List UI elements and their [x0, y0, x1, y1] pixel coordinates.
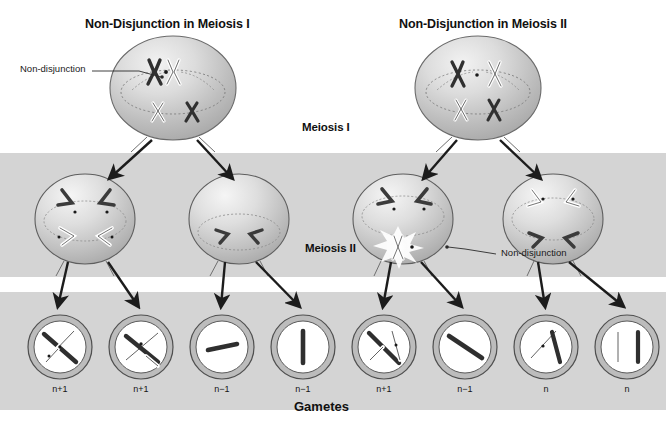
gamete-cell-3: [190, 315, 254, 379]
gametes-row-label: Gametes: [294, 400, 349, 413]
stage-label-meiosis-two: Meiosis II: [305, 243, 356, 255]
gamete-cell-2: [109, 315, 173, 379]
callout-nondisjunction-left: Non-disjunction: [20, 64, 85, 74]
parent-cell-right: [415, 36, 541, 152]
gamete-label-8: n: [624, 385, 629, 394]
gamete-cell-6: [433, 315, 497, 379]
gamete-cell-1: [28, 315, 92, 379]
gamete-label-3: n−1: [214, 385, 229, 394]
meiosis-nondisjunction-figure: Non-Disjunction in Meiosis I Non-Disjunc…: [0, 0, 666, 430]
gamete-label-1: n+1: [52, 385, 67, 394]
gamete-label-6: n−1: [457, 385, 472, 394]
title-meiosis-two: Non-Disjunction in Meiosis II: [399, 18, 567, 31]
callout-nondisjunction-right: Non-disjunction: [501, 248, 566, 258]
title-meiosis-one: Non-Disjunction in Meiosis I: [85, 18, 250, 31]
gamete-label-2: n+1: [133, 385, 148, 394]
parent-cell-left: [110, 36, 236, 152]
gamete-label-7: n: [543, 385, 548, 394]
gamete-cell-4: [271, 315, 335, 379]
stage-label-meiosis-one: Meiosis I: [302, 122, 350, 134]
gamete-cell-7: [514, 315, 578, 379]
gamete-label-5: n+1: [376, 385, 391, 394]
gamete-cell-5: [352, 315, 416, 379]
gamete-cell-8: [595, 315, 659, 379]
figure-graphics: [0, 0, 666, 430]
gamete-label-4: n−1: [295, 385, 310, 394]
